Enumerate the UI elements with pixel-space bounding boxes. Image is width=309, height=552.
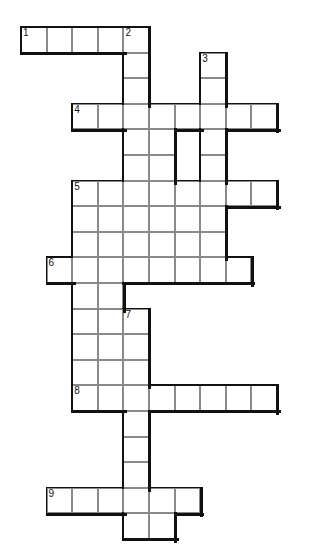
grid-cell[interactable] bbox=[200, 232, 226, 258]
grid-edge-left bbox=[71, 384, 73, 412]
grid-cell[interactable]: 2 bbox=[123, 27, 149, 53]
grid-cell[interactable] bbox=[149, 206, 175, 232]
grid-cell[interactable] bbox=[149, 488, 175, 514]
grid-cell[interactable] bbox=[123, 104, 149, 130]
grid-edge-left bbox=[122, 77, 124, 105]
grid-cell[interactable] bbox=[98, 206, 124, 232]
grid-cell[interactable] bbox=[98, 27, 124, 53]
grid-cell[interactable] bbox=[200, 129, 226, 155]
grid-cell[interactable]: 6 bbox=[47, 257, 73, 283]
grid-cell[interactable] bbox=[123, 360, 149, 386]
grid-cell[interactable] bbox=[149, 129, 175, 155]
grid-cell[interactable] bbox=[123, 181, 149, 207]
grid-cell[interactable] bbox=[149, 385, 175, 411]
grid-edge-left bbox=[122, 128, 124, 156]
grid-cell[interactable]: 1 bbox=[21, 27, 47, 53]
grid-cell[interactable] bbox=[123, 206, 149, 232]
grid-cell[interactable] bbox=[251, 181, 277, 207]
grid-edge-left bbox=[71, 205, 73, 233]
grid-cell[interactable] bbox=[72, 283, 98, 309]
grid-cell[interactable] bbox=[98, 232, 124, 258]
grid-cell[interactable] bbox=[175, 385, 201, 411]
grid-cell[interactable]: 9 bbox=[47, 488, 73, 514]
grid-cell[interactable] bbox=[175, 257, 201, 283]
grid-edge-right bbox=[251, 256, 254, 287]
grid-edge-right bbox=[200, 487, 203, 518]
grid-cell[interactable] bbox=[72, 334, 98, 360]
grid-cell[interactable] bbox=[226, 181, 252, 207]
grid-cell[interactable] bbox=[200, 385, 226, 411]
grid-cell[interactable] bbox=[200, 257, 226, 283]
cell-number: 6 bbox=[49, 257, 55, 268]
grid-cell[interactable] bbox=[123, 513, 149, 539]
grid-edge-top bbox=[46, 487, 74, 489]
grid-cell[interactable] bbox=[149, 232, 175, 258]
grid-cell[interactable] bbox=[123, 437, 149, 463]
grid-cell[interactable] bbox=[123, 488, 149, 514]
grid-cell[interactable]: 7 bbox=[123, 309, 149, 335]
grid-cell[interactable] bbox=[72, 360, 98, 386]
grid-edge-top bbox=[225, 180, 253, 182]
grid-cell[interactable] bbox=[72, 206, 98, 232]
grid-cell[interactable] bbox=[72, 257, 98, 283]
grid-cell[interactable] bbox=[123, 155, 149, 181]
grid-cell[interactable] bbox=[175, 488, 201, 514]
grid-cell[interactable] bbox=[72, 309, 98, 335]
grid-cell[interactable] bbox=[200, 104, 226, 130]
grid-cell[interactable] bbox=[98, 104, 124, 130]
grid-cell[interactable] bbox=[175, 232, 201, 258]
grid-cell[interactable] bbox=[72, 27, 98, 53]
grid-cell[interactable] bbox=[123, 257, 149, 283]
grid-cell[interactable] bbox=[123, 232, 149, 258]
grid-cell[interactable] bbox=[72, 232, 98, 258]
grid-cell[interactable] bbox=[175, 181, 201, 207]
grid-cell[interactable] bbox=[226, 104, 252, 130]
cell-number: 7 bbox=[125, 309, 131, 320]
grid-cell[interactable] bbox=[149, 257, 175, 283]
grid-cell[interactable] bbox=[47, 27, 73, 53]
grid-cell[interactable]: 5 bbox=[72, 181, 98, 207]
grid-cell[interactable]: 8 bbox=[72, 385, 98, 411]
grid-edge-top bbox=[122, 308, 150, 310]
grid-cell[interactable] bbox=[149, 181, 175, 207]
grid-cell[interactable] bbox=[72, 488, 98, 514]
grid-cell[interactable] bbox=[123, 129, 149, 155]
grid-cell[interactable] bbox=[123, 411, 149, 437]
grid-cell[interactable] bbox=[98, 309, 124, 335]
grid-cell[interactable] bbox=[123, 53, 149, 79]
grid-edge-left bbox=[46, 487, 48, 515]
grid-cell[interactable] bbox=[123, 385, 149, 411]
grid-cell[interactable] bbox=[98, 257, 124, 283]
grid-cell[interactable] bbox=[175, 104, 201, 130]
grid-cell[interactable] bbox=[98, 488, 124, 514]
grid-cell[interactable] bbox=[123, 78, 149, 104]
grid-edge-top bbox=[250, 384, 278, 386]
grid-edge-top bbox=[122, 26, 150, 28]
grid-cell[interactable] bbox=[200, 78, 226, 104]
grid-cell[interactable] bbox=[226, 385, 252, 411]
grid-cell[interactable] bbox=[98, 283, 124, 309]
grid-cell[interactable] bbox=[251, 385, 277, 411]
grid-cell[interactable] bbox=[98, 181, 124, 207]
grid-edge-right bbox=[174, 512, 177, 543]
grid-cell[interactable] bbox=[98, 334, 124, 360]
grid-edge-left bbox=[199, 128, 201, 156]
grid-cell[interactable] bbox=[251, 104, 277, 130]
grid-edge-top bbox=[71, 180, 99, 182]
grid-cell[interactable] bbox=[98, 385, 124, 411]
grid-cell[interactable] bbox=[200, 155, 226, 181]
grid-cell[interactable] bbox=[226, 257, 252, 283]
grid-cell[interactable] bbox=[149, 104, 175, 130]
grid-cell[interactable] bbox=[175, 206, 201, 232]
grid-cell[interactable] bbox=[149, 155, 175, 181]
grid-edge-top bbox=[174, 180, 202, 182]
grid-cell[interactable] bbox=[98, 360, 124, 386]
grid-edge-left bbox=[122, 52, 124, 80]
grid-cell[interactable] bbox=[200, 206, 226, 232]
grid-cell[interactable]: 4 bbox=[72, 104, 98, 130]
grid-cell[interactable] bbox=[123, 334, 149, 360]
grid-cell[interactable] bbox=[149, 513, 175, 539]
grid-cell[interactable]: 3 bbox=[200, 53, 226, 79]
grid-cell[interactable] bbox=[123, 462, 149, 488]
grid-cell[interactable] bbox=[200, 181, 226, 207]
